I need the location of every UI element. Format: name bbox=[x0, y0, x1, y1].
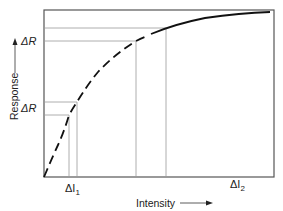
y-axis-arrow-up-icon bbox=[13, 38, 18, 45]
y-axis-label: Response bbox=[8, 73, 20, 120]
delta-r-upper-label: ΔR bbox=[20, 35, 36, 47]
delta-i1-subscript: 1 bbox=[75, 188, 80, 197]
delta-r-lower-label: ΔR bbox=[20, 102, 36, 114]
response-curve-dashed bbox=[44, 36, 147, 177]
delta-i2-subscript: 2 bbox=[240, 184, 245, 193]
x-axis-arrow-right-icon bbox=[206, 201, 213, 206]
x-axis-label: Intensity bbox=[136, 197, 176, 209]
delta-i2-label: ΔI2 bbox=[230, 178, 245, 193]
y-axis-title: Response bbox=[8, 73, 20, 120]
delta-i2-main: ΔI bbox=[230, 178, 240, 190]
plot-frame bbox=[44, 10, 274, 177]
response-intensity-diagram: ΔR ΔR Response ΔI1 ΔI2 Intensity bbox=[0, 0, 283, 211]
delta-i1-label: ΔI1 bbox=[65, 182, 80, 197]
delta-i1-main: ΔI bbox=[65, 182, 75, 194]
response-curve-solid bbox=[151, 12, 270, 34]
